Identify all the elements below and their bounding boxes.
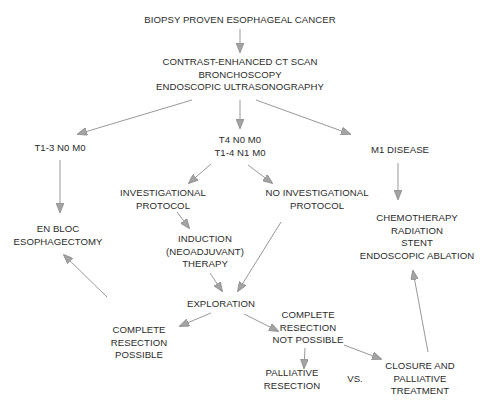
node-locally-advanced: T4 N0 M0 T1-4 N1 M0 — [214, 134, 265, 159]
node-line: CHEMOTHERAPY — [360, 212, 474, 225]
node-line: (NEOADJUVANT) — [166, 246, 244, 259]
arrow-locally-advanced-to-no-investigational — [248, 165, 272, 183]
node-palliative-options: CHEMOTHERAPY RADIATION STENT ENDOSCOPIC … — [360, 212, 474, 262]
node-line: T1-3 N0 M0 — [34, 142, 85, 155]
node-staging-workup: CONTRAST-ENHANCED CT SCAN BRONCHOSCOPY E… — [156, 56, 324, 94]
node-line: BRONCHOSCOPY — [156, 69, 324, 82]
node-line: VS. — [347, 373, 363, 386]
node-line: EN BLOC — [14, 223, 103, 236]
node-line: RESECTION — [273, 322, 344, 335]
node-line: NOT POSSIBLE — [273, 334, 344, 347]
arrow-no-investigational-to-exploration — [238, 222, 281, 291]
arrow-induction-to-exploration — [210, 273, 222, 291]
node-line: PALLIATIVE — [385, 373, 454, 386]
node-line: INDUCTION — [166, 233, 244, 246]
node-line: STENT — [360, 237, 474, 250]
node-line: COMPLETE — [273, 309, 344, 322]
arrow-closure-to-palliative-options — [413, 271, 428, 352]
node-induction-therapy: INDUCTION (NEOADJUVANT) THERAPY — [166, 233, 244, 271]
node-early-stage: T1-3 N0 M0 — [34, 142, 85, 155]
node-palliative-resection: PALLIATIVE RESECTION — [264, 367, 320, 392]
node-exploration: EXPLORATION — [187, 298, 255, 311]
node-line: PROTOCOL — [265, 200, 368, 213]
node-investigational-protocol: INVESTIGATIONAL PROTOCOL — [120, 187, 206, 212]
node-no-investigational-protocol: NO INVESTIGATIONAL PROTOCOL — [265, 187, 368, 212]
node-line: PROTOCOL — [120, 200, 206, 213]
node-versus-label: VS. — [347, 373, 363, 386]
node-line: COMPLETE — [111, 324, 167, 337]
node-line: EXPLORATION — [187, 298, 255, 311]
node-biopsy-proven-cancer: BIOPSY PROVEN ESOPHAGEAL CANCER — [144, 14, 335, 27]
node-line: T1-4 N1 M0 — [214, 147, 265, 160]
node-complete-resection-not-possible: COMPLETE RESECTION NOT POSSIBLE — [273, 309, 344, 347]
arrow-resection-possible-to-esophagectomy — [64, 255, 107, 297]
node-complete-resection-possible: COMPLETE RESECTION POSSIBLE — [111, 324, 167, 362]
node-line: RESECTION — [111, 337, 167, 350]
arrow-locally-advanced-to-investigational — [189, 164, 211, 183]
node-line: RESECTION — [264, 380, 320, 393]
node-line: M1 DISEASE — [371, 144, 429, 157]
node-line: ENDOSCOPIC ABLATION — [360, 250, 474, 263]
node-line: BIOPSY PROVEN ESOPHAGEAL CANCER — [144, 14, 335, 27]
node-line: THERAPY — [166, 258, 244, 271]
node-line: POSSIBLE — [111, 349, 167, 362]
node-line: NO INVESTIGATIONAL — [265, 187, 368, 200]
node-line: INVESTIGATIONAL — [120, 187, 206, 200]
node-line: ENDOSCOPIC ULTRASONOGRAPHY — [156, 81, 324, 94]
node-line: PALLIATIVE — [264, 367, 320, 380]
node-en-bloc-esophagectomy: EN BLOC ESOPHAGECTOMY — [14, 223, 103, 248]
node-line: ESOPHAGECTOMY — [14, 236, 103, 249]
node-line: RADIATION — [360, 225, 474, 238]
arrow-not-possible-to-closure — [344, 345, 381, 359]
arrow-staging-to-early — [78, 100, 192, 134]
node-line: T4 N0 M0 — [214, 134, 265, 147]
arrow-staging-to-metastatic — [256, 100, 350, 134]
node-line: CLOSURE AND — [385, 360, 454, 373]
arrow-exploration-to-resection-possible — [180, 313, 211, 326]
node-line: CONTRAST-ENHANCED CT SCAN — [156, 56, 324, 69]
node-metastatic-disease: M1 DISEASE — [371, 144, 429, 157]
node-closure-palliative-treatment: CLOSURE AND PALLIATIVE TREATMENT — [385, 360, 454, 398]
arrow-not-possible-to-palliative-resection — [304, 348, 305, 368]
node-line: TREATMENT — [385, 385, 454, 398]
arrow-investigational-to-induction — [177, 212, 189, 228]
